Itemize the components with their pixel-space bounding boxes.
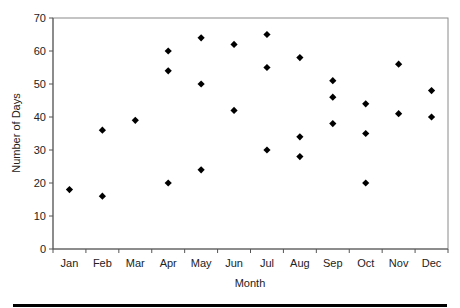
x-tick-label: Sep xyxy=(323,257,343,269)
plot-area xyxy=(53,18,448,249)
y-tick-label: 30 xyxy=(34,144,46,156)
x-axis-title: Month xyxy=(235,277,266,289)
scatter-chart: 010203040506070 JanFebMarAprMayJunJulAug… xyxy=(0,0,460,308)
y-tick-label: 70 xyxy=(34,12,46,24)
x-tick-label: Jun xyxy=(225,257,243,269)
y-axis-ticks: 010203040506070 xyxy=(34,12,53,255)
x-tick-label: May xyxy=(191,257,212,269)
y-tick-label: 40 xyxy=(34,111,46,123)
y-tick-label: 20 xyxy=(34,177,46,189)
bottom-rule xyxy=(13,304,447,307)
x-tick-label: Nov xyxy=(389,257,409,269)
x-tick-label: Feb xyxy=(93,257,112,269)
x-tick-label: Oct xyxy=(357,257,374,269)
x-axis-ticks: JanFebMarAprMayJunJulAugSepOctNovDec xyxy=(53,249,448,269)
x-tick-label: Jul xyxy=(260,257,274,269)
x-tick-label: Aug xyxy=(290,257,310,269)
y-tick-label: 50 xyxy=(34,78,46,90)
x-tick-label: Jan xyxy=(61,257,79,269)
x-tick-label: Mar xyxy=(126,257,145,269)
x-tick-label: Apr xyxy=(160,257,177,269)
y-axis-title: Number of Days xyxy=(10,93,22,173)
x-tick-label: Dec xyxy=(422,257,442,269)
y-tick-label: 0 xyxy=(40,243,46,255)
y-tick-label: 60 xyxy=(34,45,46,57)
y-tick-label: 10 xyxy=(34,210,46,222)
